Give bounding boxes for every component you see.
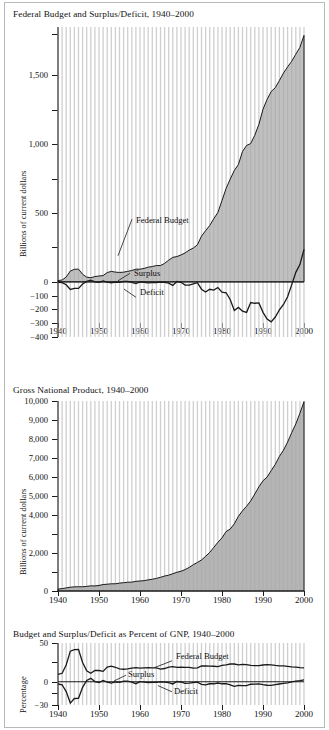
- y-tick-label: 6,000: [0, 472, 48, 482]
- x-tick-label: 1970: [172, 709, 190, 719]
- x-tick-label: 1950: [90, 709, 108, 719]
- y-tick-label: −300: [0, 318, 48, 328]
- chart-panel-percent-gnp: Budget and Surplus/Deficit as Percent of…: [5, 629, 324, 725]
- chart-panel-federal-budget: Federal Budget and Surplus/Deficit, 1940…: [5, 9, 324, 361]
- x-tick-label: 1980: [213, 709, 231, 719]
- y-tick-label: 10,000: [0, 396, 48, 406]
- x-tick-label: 1940: [49, 595, 67, 605]
- x-tick-label: 1970: [172, 595, 190, 605]
- svg-text:Surplus: Surplus: [134, 268, 161, 278]
- y-tick-label: 500: [0, 208, 48, 218]
- y-tick-label: 0: [0, 277, 48, 287]
- y-tick-label: 1,500: [0, 70, 48, 80]
- chart-title-federal-budget: Federal Budget and Surplus/Deficit, 1940…: [13, 9, 194, 19]
- x-tick-label: 1990: [254, 709, 272, 719]
- y-tick-label: 0: [0, 677, 48, 687]
- x-tick-label: 1990: [254, 595, 272, 605]
- y-tick-mark: [52, 337, 58, 338]
- chart-panel-gnp: Gross National Product, 1940–2000 Billio…: [5, 385, 324, 613]
- y-tick-label: 0: [0, 586, 48, 596]
- chart-svg-federal-budget: Federal BudgetSurplusDeficit: [58, 27, 304, 337]
- x-tick-label: 1940: [49, 709, 67, 719]
- y-tick-label: 5,000: [0, 491, 48, 501]
- x-tick-label: 2000: [295, 709, 313, 719]
- y-tick-label: 8,000: [0, 434, 48, 444]
- svg-text:Deficit: Deficit: [174, 686, 198, 696]
- x-tick-label: 1960: [131, 709, 149, 719]
- x-tick-label: 2000: [295, 595, 313, 605]
- x-tick-label: 1980: [213, 595, 231, 605]
- plot-area-federal-budget: Federal BudgetSurplusDeficit: [58, 27, 304, 337]
- y-axis-label-gnp: Billions of current dollars: [19, 489, 28, 575]
- chart-svg-gnp: [58, 401, 304, 591]
- y-tick-label: 50: [0, 638, 48, 648]
- plot-area-gnp: [58, 401, 304, 591]
- plot-area-percent-gnp: Federal BudgetSurplusDeficit: [58, 643, 304, 705]
- chart-svg-percent-gnp: Federal BudgetSurplusDeficit: [58, 643, 304, 705]
- svg-text:Federal Budget: Federal Budget: [136, 215, 189, 225]
- y-tick-label: 9,000: [0, 415, 48, 425]
- svg-text:Federal Budget: Federal Budget: [176, 651, 229, 661]
- x-tick-label: 1960: [131, 595, 149, 605]
- svg-text:Deficit: Deficit: [140, 287, 164, 297]
- y-tick-label: −200: [0, 304, 48, 314]
- y-tick-label: −400: [0, 332, 48, 342]
- y-tick-label: 2,000: [0, 548, 48, 558]
- y-tick-label: 7,000: [0, 453, 48, 463]
- y-tick-label: 4,000: [0, 510, 48, 520]
- x-tick-label: 1950: [90, 595, 108, 605]
- y-tick-label: 1,000: [0, 139, 48, 149]
- chart-title-gnp: Gross National Product, 1940–2000: [13, 385, 149, 395]
- figure-container: Federal Budget and Surplus/Deficit, 1940…: [4, 2, 325, 728]
- y-tick-label: −30: [0, 700, 48, 710]
- svg-text:Surplus: Surplus: [128, 669, 155, 679]
- y-tick-label: −100: [0, 291, 48, 301]
